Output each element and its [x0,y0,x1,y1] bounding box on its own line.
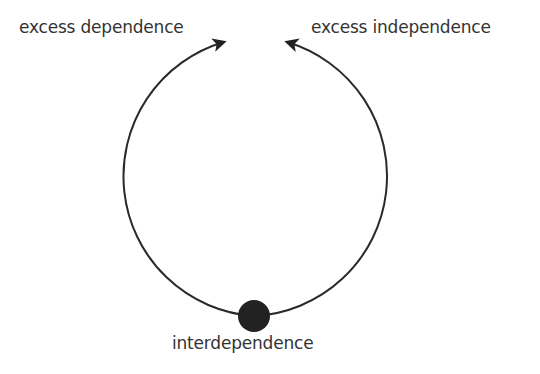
label-excess-dependence: excess dependence [19,17,184,37]
arc-to-excess-independence [254,42,387,316]
interdependence-dot [238,300,270,332]
arc-to-excess-dependence [123,42,254,316]
label-interdependence: interdependence [172,333,313,353]
cycle-diagram [0,0,540,374]
label-excess-independence: excess independence [311,17,491,37]
